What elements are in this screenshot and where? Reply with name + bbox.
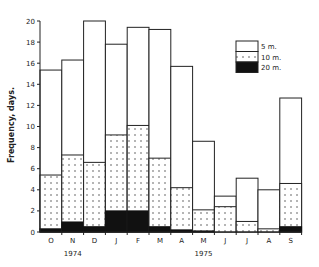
y-tick-label: 6 [31,165,36,173]
bar-segment-20m [105,211,127,232]
bar-segment-20m [84,227,106,232]
x-tick-label: N [70,237,75,245]
x-tick-label: J [114,237,117,245]
bar-7 [193,141,215,232]
bar-segment-10m [62,155,84,232]
bar-11 [280,98,302,232]
legend-swatch [236,41,258,52]
legend-item-10m: 10 m. [236,52,281,63]
x-tick-label: S [288,237,293,245]
bar-10 [258,190,280,232]
bar-2 [84,21,106,232]
x-tick-label: J [223,237,226,245]
frequency-bar-chart: ONDJFMAMJJAS1974197502468101214161820 5 … [0,0,319,267]
legend-swatch [236,62,258,73]
y-tick-label: 12 [26,102,35,110]
bar-segment-10m [236,221,258,232]
x-tick-label: M [200,237,206,245]
y-tick-label: 14 [26,81,35,89]
year-label: 1974 [64,250,82,258]
bar-segment-20m [127,211,149,232]
bar-segment-20m [280,227,302,232]
x-tick-label: A [267,237,272,245]
bar-6 [171,66,193,232]
year-label: 1975 [195,250,213,258]
y-tick-label: 20 [26,18,35,26]
y-tick-label: 18 [26,39,35,47]
bar-segment-10m [214,207,236,232]
legend-label: 10 m. [261,54,281,62]
bar-segment-20m [149,227,171,232]
legend: 5 m.10 m.20 m. [236,41,281,73]
x-tick-label: A [179,237,184,245]
y-axis-title: Frequency, days. [7,87,16,163]
y-tick-label: 4 [31,186,36,194]
bar-0 [40,70,62,232]
bar-8 [214,196,236,232]
legend-item-20m: 20 m. [236,62,281,73]
bar-3 [105,44,127,232]
y-tick-label: 10 [26,123,35,131]
y-tick-label: 2 [31,207,35,215]
bar-segment-10m [280,183,302,232]
x-tick-label: M [157,237,163,245]
x-tick-label: O [48,237,54,245]
y-tick-label: 0 [31,229,35,237]
x-tick-label: D [92,237,97,245]
bar-segment-10m [40,175,62,232]
x-tick-label: J [245,237,248,245]
legend-item-5m: 5 m. [236,41,277,52]
bar-9 [236,178,258,232]
x-tick-label: F [136,237,140,245]
legend-label: 5 m. [261,43,277,51]
bar-segment-10m [193,210,215,232]
legend-label: 20 m. [261,64,281,72]
bar-4 [127,27,149,232]
bar-5 [149,29,171,232]
bar-1 [62,60,84,232]
y-tick-label: 16 [26,60,35,68]
bar-segment-10m [84,162,106,232]
y-tick-label: 8 [31,144,35,152]
bar-segment-10m [149,158,171,232]
bar-segment-20m [62,222,84,232]
bar-segment-10m [171,188,193,232]
bar-segment-5m [258,190,280,232]
legend-swatch [236,52,258,63]
